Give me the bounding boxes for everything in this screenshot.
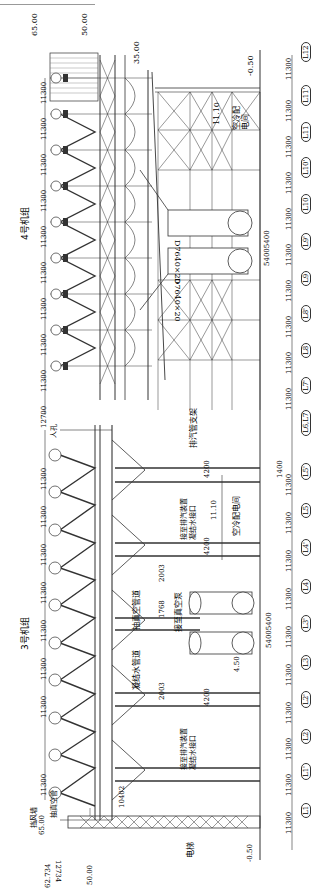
axis-bubble: L4': [301, 539, 311, 556]
axis-bubble: L10': [301, 157, 311, 178]
dim-4200-b: 4200: [203, 537, 211, 555]
axis-bubble: L9': [301, 233, 311, 250]
axis-bubble: L9: [301, 271, 311, 286]
dim-4200-a: 4200: [203, 460, 211, 478]
acc-elevation-drawing: 65.00 50.00 35.00 -0.50 4号机组 3号机组 11.10 …: [0, 0, 328, 894]
exhaust-support-label: 排汽管支架: [187, 408, 198, 448]
axis-bubble: L5: [301, 503, 311, 518]
elev-minus050-bottom: -0.50: [246, 844, 254, 862]
axis-bubble: L10: [301, 194, 311, 214]
elev-50-top: 50.00: [80, 13, 89, 36]
axis-bubble: L1: [301, 803, 311, 818]
dim-4200-c: 4200: [203, 688, 211, 706]
axis-bubble: L8': [301, 305, 311, 322]
text-layer: 65.00 50.00 35.00 -0.50 4号机组 3号机组 11.10 …: [0, 0, 328, 894]
unit4-title: 4号机组: [18, 207, 31, 240]
level-450: 4.50: [233, 656, 241, 672]
level-1110-top: 11.10: [212, 102, 221, 125]
pipe-dim-2: D7640×20: [173, 278, 182, 322]
axis-bubble: L3': [301, 615, 311, 632]
to-drain-label-1: 接至排汽装置凝结水接口: [180, 496, 198, 540]
condensate-pipe-label: 凝结水管道: [130, 650, 141, 690]
unit4-dims: 11300 11300 11300 11300 11300 11300 1130…: [40, 78, 50, 418]
elev-62734: 62.734: [44, 864, 52, 889]
axis-bubble: L12: [301, 42, 311, 62]
axis-grid: L12 L11' L11 L10' L10 L9' L9 L8' L8 L7' …: [283, 50, 328, 870]
elevator-label: 电梯: [184, 842, 195, 858]
dim-2003-b: 2003: [158, 682, 166, 700]
wind-wall-label: 挡风墙: [28, 807, 38, 828]
elev-minus050-top: -0.50: [246, 55, 255, 76]
elev-65-top: 65.00: [30, 13, 39, 36]
to-vacuum-label: 接至真空泵: [172, 592, 183, 632]
switch-room-mid: 空冷配电间: [230, 496, 241, 536]
axis-bubble: L4: [301, 579, 311, 594]
vacuum-pipe-label: 抽真空管道: [130, 590, 141, 630]
unit3-title: 3号机组: [18, 617, 31, 650]
unit3-dims: 11300 11300 11300 11300 11300 11300 1130…: [40, 430, 50, 830]
axis-bubble: L11': [301, 85, 311, 106]
dim-5400-lower: 54005400: [265, 612, 273, 648]
dim-12734: 12734: [54, 860, 62, 882]
axis-bubble: L1': [301, 763, 311, 780]
axis-bubble: L5': [301, 463, 311, 480]
axis-bubble: L8: [301, 343, 311, 358]
axis-bubble: L6,L7: [301, 410, 311, 436]
to-drain-label-2: 接至排汽装置凝结水接口: [180, 726, 198, 770]
axis-bubble: L7': [301, 377, 311, 394]
axis-bubble: L11: [301, 122, 311, 142]
dim-10402: 10402: [118, 786, 126, 808]
axis-bubble: L2: [301, 729, 311, 744]
dim-2003-a: 2003: [158, 564, 166, 582]
axis-bubble: L3: [301, 655, 311, 670]
dim-1768: 1768: [158, 600, 166, 618]
axis-bubble: L2': [301, 691, 311, 708]
dim-5400-upper: 54005400: [263, 230, 271, 266]
level-1110-mid: 11.10: [210, 500, 218, 520]
elev-50-bottom: 50.00: [86, 865, 94, 885]
elev-35: 35.00: [132, 41, 141, 64]
switch-room-top: 空冷配电间: [232, 100, 250, 130]
